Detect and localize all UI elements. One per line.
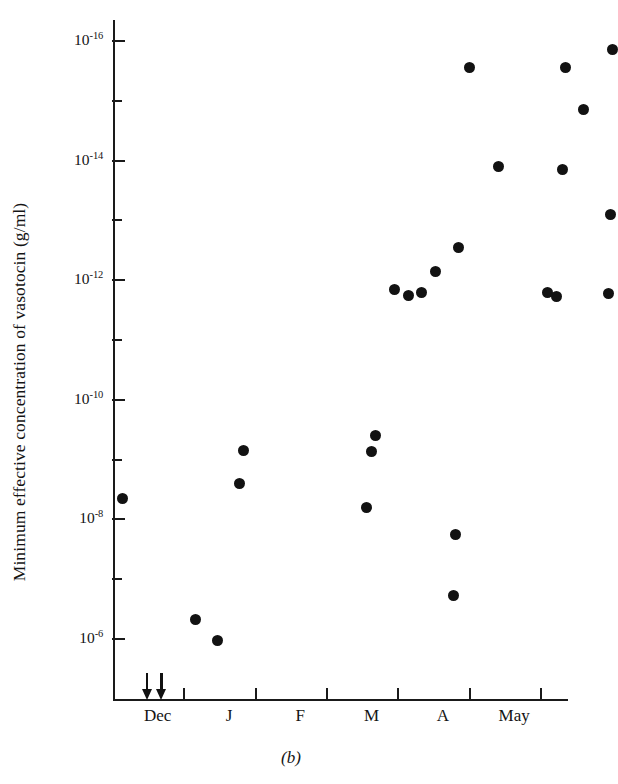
x-tick-label: Dec: [144, 706, 171, 726]
x-tick-label: F: [296, 706, 305, 726]
x-tick: [469, 688, 471, 700]
y-tick-major: [112, 40, 125, 42]
y-tick-label: 10-12: [74, 269, 103, 288]
data-point: [578, 104, 589, 115]
x-tick-label: May: [499, 706, 530, 726]
data-point: [190, 614, 201, 625]
y-tick-label: 10-8: [79, 508, 103, 527]
y-tick-major: [112, 518, 125, 520]
data-point: [234, 478, 245, 489]
y-tick-label: 10-14: [74, 150, 103, 169]
data-point: [464, 62, 475, 73]
data-point: [551, 291, 562, 302]
data-point: [605, 209, 616, 220]
x-tick: [397, 688, 399, 700]
y-tick-label: 10-10: [74, 389, 103, 408]
y-tick-minor: [112, 578, 122, 580]
x-tick-label: M: [364, 706, 379, 726]
data-point: [366, 446, 377, 457]
annotation-arrow-down-icon: [142, 673, 152, 699]
data-point: [117, 493, 128, 504]
y-tick-minor: [112, 459, 122, 461]
y-tick-major: [112, 399, 125, 401]
x-tick: [326, 688, 328, 700]
y-axis-title: Minimum effective concentration of vasot…: [0, 0, 38, 784]
data-point: [361, 502, 372, 513]
y-tick-label: 10-16: [74, 30, 103, 49]
x-tick-label: A: [437, 706, 449, 726]
x-tick: [183, 688, 185, 700]
plot-area: 10-1610-1410-1210-1010-810-6 DecJFMAMay: [113, 20, 568, 700]
data-point: [453, 242, 464, 253]
y-axis-line: [113, 20, 115, 700]
data-point: [493, 161, 504, 172]
data-point: [603, 288, 614, 299]
data-point: [430, 266, 441, 277]
annotation-arrow-down-icon: [156, 673, 166, 699]
data-point: [448, 590, 459, 601]
data-point: [607, 44, 618, 55]
x-tick: [255, 688, 257, 700]
data-point: [212, 635, 223, 646]
data-point: [557, 164, 568, 175]
y-tick-label: 10-6: [79, 628, 103, 647]
y-tick-major: [112, 279, 125, 281]
data-point: [403, 290, 414, 301]
figure-caption: (b): [0, 748, 582, 768]
y-tick-minor: [112, 339, 122, 341]
y-tick-major: [112, 160, 125, 162]
x-tick-label: J: [226, 706, 233, 726]
data-point: [450, 529, 461, 540]
x-tick: [540, 688, 542, 700]
data-point: [238, 445, 249, 456]
y-tick-major: [112, 638, 125, 640]
data-point: [389, 284, 400, 295]
y-tick-minor: [112, 219, 122, 221]
data-point: [416, 287, 427, 298]
data-point: [560, 62, 571, 73]
x-axis-line: [113, 699, 568, 701]
data-point: [370, 430, 381, 441]
y-tick-minor: [112, 100, 122, 102]
